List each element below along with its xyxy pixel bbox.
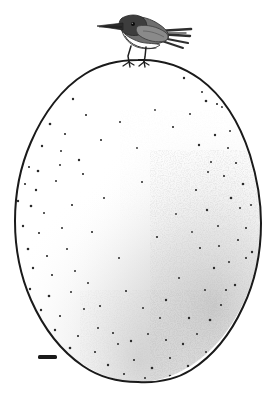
scale-bar [38,355,57,359]
illustration-canvas [0,0,280,398]
illustration-figure: A small bird perched on the apex of a ve… [0,0,280,398]
bird-eye-highlight [132,23,133,24]
bird-eye [131,22,135,26]
